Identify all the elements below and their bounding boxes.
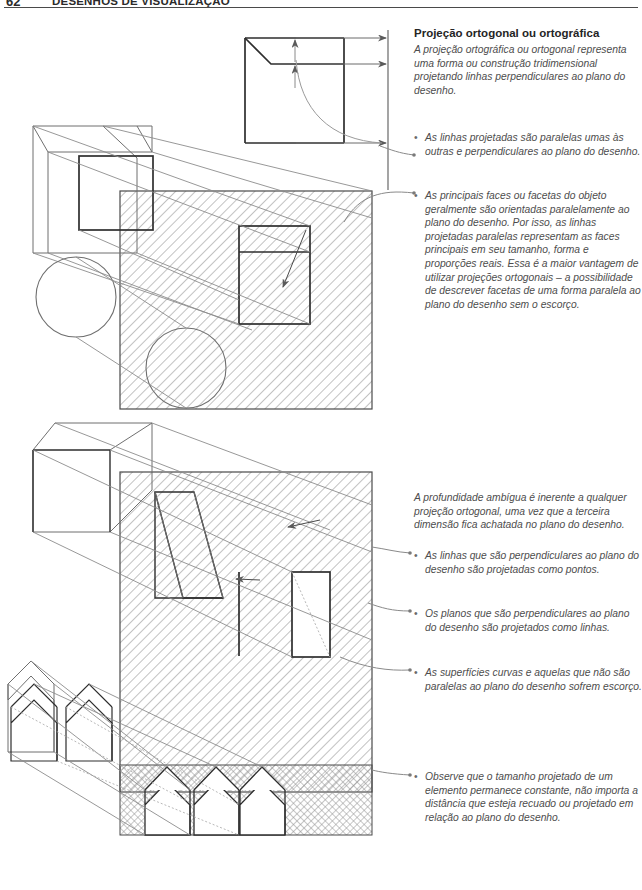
bullet-planos-linhas: • Os planos que são perpendiculares ao p… (414, 607, 642, 634)
bullet-marker-icon: • (414, 607, 422, 621)
bullet-profundidade-ambigua: A profundidade ambígua é inerente a qual… (414, 491, 642, 532)
header-rule (4, 7, 638, 8)
figure-middle-projection-group (33, 423, 412, 792)
bullet-marker-icon: • (414, 666, 422, 680)
figure-bottom-projection-group (8, 661, 412, 835)
bullet-superficies-curvas: • As superfícies curvas e aquelas que nã… (414, 666, 642, 693)
bullet-marker-icon: • (414, 549, 422, 563)
bullet-text: As linhas que são perpendiculares ao pla… (425, 549, 642, 576)
section-intro-block: Projeção ortogonal ou ortográfica A proj… (414, 26, 640, 97)
bullet-faces-principais: • As principais faces ou facetas do obje… (414, 189, 642, 311)
bullet-marker-icon: • (414, 131, 422, 145)
book-title: DESENHOS DE VISUALIZAÇÃO (52, 0, 230, 7)
bullet-text: As superfícies curvas e aquelas que não … (425, 666, 642, 693)
bullet-text: Os planos que são perpendiculares ao pla… (425, 607, 642, 634)
bullet-marker-icon: • (414, 770, 422, 784)
bullet-linhas-pontos: • As linhas que são perpendiculares ao p… (414, 549, 642, 576)
bullet-linhas-paralelas: • As linhas projetadas são paralelas uma… (414, 131, 642, 158)
section-heading: Projeção ortogonal ou ortográfica (414, 26, 640, 40)
running-head: 62 DESENHOS DE VISUALIZAÇÃO (0, 0, 642, 10)
bullet-text: As linhas projetadas são paralelas umas … (425, 131, 642, 158)
section-intro-paragraph: A projeção ortográfica ou ortogonal repr… (414, 43, 640, 97)
bullet-marker-icon: • (414, 189, 422, 203)
bullet-text: As principais faces ou facetas do objeto… (425, 189, 642, 311)
bullet-text: A profundidade ambígua é inerente a qual… (414, 491, 642, 532)
page-canvas: 62 DESENHOS DE VISUALIZAÇÃO (0, 0, 642, 890)
bullet-text: Observe que o tamanho projetado de um el… (425, 770, 642, 824)
bullet-tamanho-constante: • Observe que o tamanho projetado de um … (414, 770, 642, 824)
figure-top-projection-group (33, 30, 416, 409)
